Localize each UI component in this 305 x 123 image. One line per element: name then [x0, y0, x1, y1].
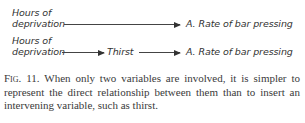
row2-intermediate: Thirst	[107, 47, 133, 57]
row1-arrow-icon	[64, 24, 180, 25]
causal-diagram: Hours of deprivation A. Rate of bar pres…	[0, 0, 305, 60]
figure-caption: Fig. 11. When only two variables are inv…	[4, 72, 300, 113]
caption-text: When only two variables are involved, it…	[4, 72, 300, 111]
row2-arrow2-icon	[139, 52, 180, 53]
row1-source-line2: deprivation	[12, 19, 65, 29]
row1-target: A. Rate of bar pressing	[186, 19, 293, 29]
row2-arrow1-icon	[62, 52, 104, 53]
figure-label: Fig. 11.	[4, 72, 40, 84]
row2-source-line1: Hours of	[12, 36, 51, 46]
row1-source-line1: Hours of	[12, 8, 51, 18]
row2-target: A. Rate of bar pressing	[186, 47, 293, 57]
row2-source-line2: deprivation	[12, 47, 65, 57]
